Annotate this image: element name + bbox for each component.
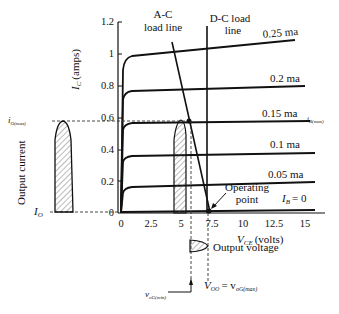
x-tick-15: 15 (300, 218, 311, 229)
label-0.25ma: 0.25 ma (262, 25, 298, 40)
label-0.1ma: 0.1 ma (270, 138, 300, 150)
label-output-current: Output current (15, 141, 27, 205)
ac-load-label-1: A-C (154, 8, 173, 20)
x-tick-labels: 0 2.5 5 7.5 10 12.5 15 (118, 218, 310, 229)
dc-load-label-1: D-C load (210, 12, 251, 24)
x-tick-12.5: 12.5 (265, 218, 283, 229)
curve-ib0 (121, 210, 315, 212)
curve-labels: 0.25 ma 0.2 ma 0.15 ma 0.1 ma 0.05 ma IB… (262, 25, 324, 206)
characteristic-curves (121, 40, 315, 213)
label-ib-zero: IB= 0 (281, 192, 307, 206)
label-io: IO (33, 205, 43, 219)
vog-min-indicator: voG(min) (145, 278, 193, 300)
x-tick-5: 5 (178, 218, 183, 229)
label-voo: VOO= voG(max) (204, 279, 257, 293)
label-0.05ma: 0.05 ma (268, 168, 304, 180)
y-tick-0.2: 0.2 (101, 176, 114, 187)
ac-load-label-2: load line (144, 21, 182, 33)
x-tick-10: 10 (238, 218, 249, 229)
svg-text:IC(amps): IC(amps) (69, 49, 83, 91)
output-current-labels: iO(max) IO Output current (8, 115, 43, 219)
svg-text:point: point (236, 193, 259, 205)
chart-hatched-waveform (174, 120, 186, 213)
label-vog-min: voG(min) (145, 289, 166, 300)
output-voltage-waveform (190, 240, 208, 252)
y-tick-0.4: 0.4 (101, 144, 115, 155)
y-tick-0: 0 (109, 207, 114, 218)
y-tick-1: 1 (109, 48, 114, 59)
y-tick-1.2: 1.2 (101, 16, 114, 27)
load-line-labels: A-C load line D-C load line (144, 8, 251, 36)
transistor-characteristics-chart: 0 0.2 0.4 0.6 0.8 1 1.2 0 2.5 5 7.5 10 1… (0, 0, 339, 314)
label-0.2ma: 0.2 ma (270, 72, 300, 84)
dc-load-label-2: line (225, 24, 242, 36)
x-tick-2.5: 2.5 (144, 218, 157, 229)
label-io-max: iO(max) (8, 115, 26, 126)
label-0.15ma: 0.15 ma (262, 107, 298, 119)
x-tick-0: 0 (118, 218, 123, 229)
y-tick-0.8: 0.8 (101, 80, 114, 91)
operating-point-dot (207, 209, 212, 214)
label-output-voltage: Output voltage (213, 241, 279, 253)
svg-text:Operating: Operating (225, 181, 269, 193)
y-tick-labels: 0 0.2 0.4 0.6 0.8 1 1.2 (101, 16, 115, 218)
x-tick-7.5: 7.5 (205, 218, 218, 229)
label-ib-max: iB(max) (307, 115, 324, 124)
y-axis-title: IC(amps) (69, 49, 83, 91)
output-current-waveform (55, 121, 73, 212)
